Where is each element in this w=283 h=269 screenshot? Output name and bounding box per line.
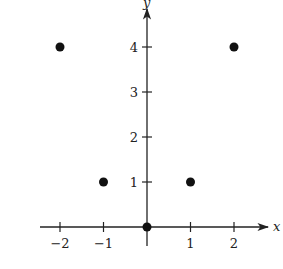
y-tick: 4	[130, 40, 152, 55]
y-tick: 3	[130, 85, 152, 100]
y-tick: 2	[130, 130, 152, 145]
y-tick-label: 4	[130, 40, 138, 55]
y-ticks: 1234	[130, 40, 152, 190]
y-tick-label: 3	[130, 85, 138, 100]
x-axis-label: x	[273, 219, 281, 234]
y-axis-label: y	[142, 0, 151, 10]
x-axis: x −2−112	[40, 219, 281, 251]
scatter-plot: x −2−112 y 1234	[0, 0, 283, 269]
x-tick-label: −2	[50, 236, 69, 251]
x-tick-label: 2	[230, 236, 238, 251]
y-axis: y 1234	[130, 0, 152, 246]
data-point	[99, 178, 108, 187]
data-point	[143, 223, 152, 232]
y-tick: 1	[130, 175, 152, 190]
x-tick-label: 1	[186, 236, 194, 251]
data-point	[56, 43, 65, 52]
data-point	[186, 178, 195, 187]
y-tick-label: 1	[130, 175, 138, 190]
y-tick-label: 2	[130, 130, 138, 145]
data-point	[230, 43, 239, 52]
x-tick-label: −1	[94, 236, 113, 251]
